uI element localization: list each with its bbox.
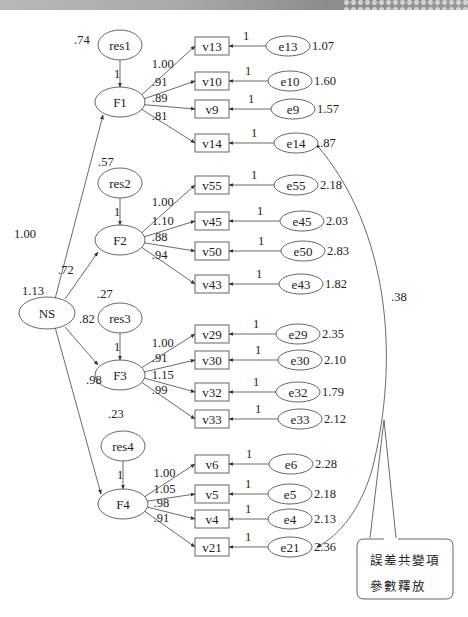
callout-text-line1: 誤差共變項 [370, 550, 440, 569]
error-covariance-label: .38 [391, 290, 407, 304]
residual-path-label-res2: 1 [114, 205, 120, 219]
loading-path-f1-v9 [142, 105, 195, 110]
node-label-res1: res1 [109, 38, 131, 53]
node-label-ns: NS [39, 306, 56, 321]
error-path-label-e43: 1 [256, 267, 262, 281]
node-label-v5: v5 [206, 487, 219, 502]
node-label-v4: v4 [206, 512, 220, 527]
loading-path-f1-v10 [142, 81, 195, 100]
error-path-label-e32: 1 [253, 375, 259, 389]
node-label-res2: res2 [109, 176, 131, 191]
structural-path-ns-f3 [65, 327, 98, 365]
residual-variance-res2: .57 [98, 155, 114, 169]
residual-variance-res1: .74 [74, 33, 90, 47]
node-label-e14: e14 [287, 136, 306, 151]
error-variance-e14: .87 [320, 136, 336, 150]
node-label-e4: e4 [284, 512, 297, 527]
error-path-label-e50: 1 [258, 234, 264, 248]
error-variance-e4: 2.13 [314, 512, 336, 526]
node-label-e13: e13 [279, 39, 298, 54]
loading-label-v43: .94 [152, 248, 168, 262]
callout-text-line2: 參數釋放 [370, 576, 426, 595]
node-label-e55: e55 [287, 178, 306, 193]
structural-path-label-f1: 1.00 [14, 227, 36, 241]
node-label-f1: F1 [113, 95, 127, 110]
loading-path-f1-v14 [142, 110, 195, 144]
node-label-e33: e33 [291, 412, 310, 427]
error-variance-e33: 2.12 [324, 412, 346, 426]
structural-path-label-f3: .82 [79, 312, 95, 326]
error-variance-e50: 2.83 [327, 244, 349, 258]
residual-path-label-res1: 1 [114, 67, 120, 81]
loading-label-v5: 1.05 [154, 482, 176, 496]
node-label-v29: v29 [202, 327, 222, 342]
loading-label-v13: 1.00 [152, 57, 174, 71]
node-label-e10: e10 [281, 74, 300, 89]
node-label-v43: v43 [202, 277, 222, 292]
error-path-label-e33: 1 [255, 402, 261, 416]
node-label-f3: F3 [113, 368, 127, 383]
node-label-f4: F4 [116, 497, 130, 512]
error-path-label-e21: 1 [245, 530, 251, 544]
node-label-v6: v6 [206, 457, 220, 472]
node-label-v9: v9 [206, 102, 219, 117]
loading-label-v30: .91 [152, 351, 168, 365]
loading-label-v50: .88 [152, 230, 168, 244]
loading-label-v32: 1.15 [152, 368, 174, 382]
callout-pointer [370, 420, 396, 538]
loading-label-v10: .91 [152, 75, 168, 89]
error-variance-e55: 2.18 [320, 178, 342, 192]
node-label-e5: e5 [284, 487, 296, 502]
node-label-v13: v13 [202, 39, 222, 54]
node-label-v33: v33 [202, 412, 222, 427]
node-label-e21: e21 [281, 540, 300, 555]
error-path-label-e10: 1 [245, 64, 251, 78]
variance-label-ns: 1.13 [22, 284, 44, 298]
structural-path-label-f2: .72 [58, 263, 74, 277]
residual-path-label-res4: 1 [117, 468, 123, 482]
loading-label-v33: .99 [152, 383, 168, 397]
node-label-e9: e9 [287, 102, 299, 117]
node-label-e50: e50 [294, 244, 313, 259]
loading-label-v6: 1.00 [154, 466, 176, 480]
error-variance-e5: 2.18 [314, 487, 336, 501]
node-label-v30: v30 [202, 353, 222, 368]
residual-variance-res3: .27 [97, 287, 113, 301]
error-path-label-e30: 1 [255, 343, 261, 357]
error-variance-e45: 2.03 [326, 214, 348, 228]
loading-path-f2-v43 [142, 248, 195, 285]
node-label-e29: e29 [289, 327, 308, 342]
node-label-v21: v21 [202, 540, 222, 555]
error-variance-e9: 1.57 [317, 102, 339, 116]
error-path-label-e4: 1 [245, 502, 251, 516]
node-label-v10: v10 [202, 74, 222, 89]
error-variance-e21: 2.36 [314, 540, 336, 554]
node-label-res3: res3 [109, 311, 131, 326]
loading-path-f3-v33 [142, 383, 195, 420]
error-variance-e30: 2.10 [324, 353, 346, 367]
node-label-v50: v50 [202, 244, 222, 259]
error-variance-e6: 2.28 [315, 457, 337, 471]
node-label-e30: e30 [291, 353, 310, 368]
node-label-e32: e32 [289, 385, 308, 400]
error-path-label-e55: 1 [251, 168, 257, 182]
error-path-label-e29: 1 [253, 317, 259, 331]
node-label-res4: res4 [112, 439, 134, 454]
error-variance-e32: 1.79 [322, 385, 344, 399]
loading-label-v55: 1.00 [152, 195, 174, 209]
node-label-v45: v45 [202, 214, 222, 229]
sem-path-diagram: NS1.131.00res1.741F1v131.00e1311.07v10.9… [0, 0, 468, 617]
node-label-v14: v14 [202, 136, 222, 151]
error-variance-e29: 2.35 [322, 327, 344, 341]
node-label-v55: v55 [202, 178, 222, 193]
residual-variance-res4: .23 [108, 407, 124, 421]
residual-path-label-res3: 1 [114, 340, 120, 354]
structural-path-ns-f4 [55, 327, 101, 494]
loading-label-v29: 1.00 [152, 336, 174, 350]
loading-label-v21: .91 [154, 511, 170, 525]
loading-label-v4: .98 [154, 496, 170, 510]
loading-label-v45: 1.10 [152, 214, 174, 228]
error-variance-e43: 1.82 [325, 277, 347, 291]
loading-label-v14: .81 [152, 109, 168, 123]
error-path-label-e13: 1 [243, 29, 249, 43]
